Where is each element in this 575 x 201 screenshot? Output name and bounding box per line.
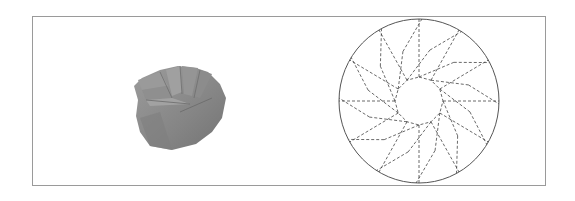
- figure-canvas: [0, 0, 575, 201]
- crease-pattern: [339, 19, 499, 183]
- origami-photo: [134, 66, 226, 150]
